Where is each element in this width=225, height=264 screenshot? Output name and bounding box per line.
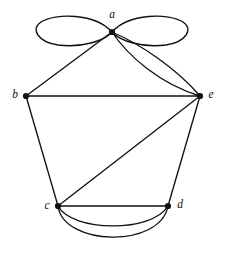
vertex-e[interactable] xyxy=(197,93,203,99)
vertex-c[interactable] xyxy=(55,203,61,209)
graph-figure: a b c d e xyxy=(0,0,225,264)
edge-c-d-curve-inner xyxy=(58,206,168,226)
vertex-label-d: d xyxy=(177,198,183,210)
edge-b-c xyxy=(26,96,58,206)
vertex-d[interactable] xyxy=(165,203,171,209)
edge-a-e-outer xyxy=(112,32,200,96)
vertex-label-c: c xyxy=(44,199,49,211)
edge-loop-a-right xyxy=(112,16,188,46)
edge-a-b xyxy=(26,32,112,96)
vertex-label-a: a xyxy=(109,8,115,20)
vertex-a[interactable] xyxy=(109,29,115,35)
vertex-label-e: e xyxy=(208,88,213,100)
edge-c-e xyxy=(58,96,200,206)
vertex-b[interactable] xyxy=(23,93,29,99)
edge-c-d-curve-outer xyxy=(58,206,168,237)
edge-d-e xyxy=(168,96,200,206)
vertex-label-b: b xyxy=(12,88,18,100)
edge-a-e-inner xyxy=(112,32,200,96)
graph-canvas: a b c d e xyxy=(0,0,225,264)
